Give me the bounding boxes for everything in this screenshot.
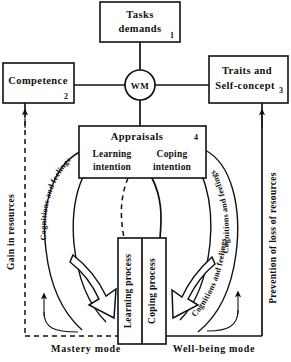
box-processes[interactable]: Learning process Coping process — [118, 238, 166, 344]
coping-process-label: Coping process — [147, 258, 157, 324]
competence-label: Competence — [8, 75, 67, 86]
coping-intention-line1: Coping — [157, 149, 188, 159]
learning-process-label: Learning process — [123, 254, 133, 329]
box-traits-self-concept[interactable]: Traits and Self-concept 3 — [209, 56, 288, 103]
tasks-demands-line1: Tasks — [126, 9, 153, 20]
box-tasks-demands[interactable]: Tasks demands 1 — [100, 2, 180, 42]
left-rail-label: Gain in resources — [6, 194, 16, 270]
coping-intention-line2: intention — [153, 162, 192, 172]
right-rail-label: Prevention of loss of resources — [268, 172, 278, 304]
appraisals-label: Appraisals — [111, 131, 163, 142]
mode-label-well-being: Well-being mode — [173, 343, 255, 354]
diagram-canvas: Tasks demands 1 Competence 2 Traits and … — [0, 0, 291, 362]
learning-intention-line1: Learning — [92, 149, 131, 159]
learning-intention-line2: intention — [93, 162, 132, 172]
hub-label: WM — [131, 81, 150, 91]
competence-number: 2 — [64, 92, 68, 101]
block-arrow-left — [70, 255, 116, 318]
mode-label-mastery: Mastery mode — [51, 343, 121, 354]
traits-number: 3 — [279, 86, 283, 95]
tasks-demands-line2: demands — [118, 23, 161, 34]
traits-line2: Self-concept — [215, 80, 275, 91]
tasks-demands-number: 1 — [170, 31, 174, 40]
appraisals-number: 4 — [194, 133, 198, 142]
intention-to-process-curves — [121, 178, 161, 238]
box-appraisals[interactable]: Appraisals 4 Learning intention Coping i… — [79, 126, 206, 178]
traits-line1: Traits and — [222, 65, 272, 76]
box-competence[interactable]: Competence 2 — [3, 63, 74, 103]
arc-label-outer-left: Cognitions and feelings — [39, 156, 73, 241]
hub-working-memory[interactable]: WM — [125, 70, 155, 100]
